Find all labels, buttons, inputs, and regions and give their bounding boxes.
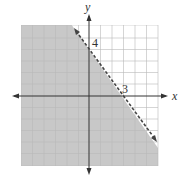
y-axis-arrow-down-icon <box>87 168 92 175</box>
y-axis-label: y <box>84 0 91 14</box>
inequality-graph: y x 4 3 <box>0 0 183 176</box>
x-axis-arrow-right-icon <box>161 94 168 99</box>
x-axis-label: x <box>171 89 178 103</box>
x-axis-arrow-left-icon <box>12 94 19 99</box>
x-intercept-label: 3 <box>122 82 128 96</box>
y-intercept-label: 4 <box>92 36 98 50</box>
y-axis-arrow-up-icon <box>87 14 92 21</box>
